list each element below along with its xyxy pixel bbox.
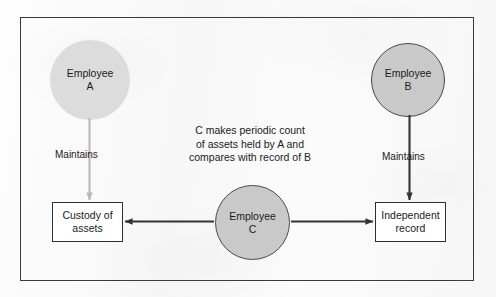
node-employee-c[interactable]: Employee C: [215, 185, 290, 260]
node-independent-record[interactable]: Independent record: [375, 202, 446, 242]
node-record-label-line1: Independent: [381, 209, 439, 223]
diagram-canvas: Employee A Employee B Employee C Custody…: [0, 0, 496, 297]
node-custody-label-line2: assets: [72, 222, 102, 236]
node-employee-c-label-line1: Employee: [229, 210, 276, 223]
node-record-label-line2: record: [396, 222, 426, 236]
node-employee-c-label-line2: C: [249, 223, 257, 236]
edge-label-maintains-a: Maintains: [55, 149, 98, 161]
edge-label-maintains-b: Maintains: [382, 151, 425, 163]
node-custody-of-assets[interactable]: Custody of assets: [52, 202, 123, 242]
node-custody-label-line1: Custody of: [62, 209, 112, 223]
annotation-note: C makes periodic count of assets held by…: [160, 124, 340, 165]
